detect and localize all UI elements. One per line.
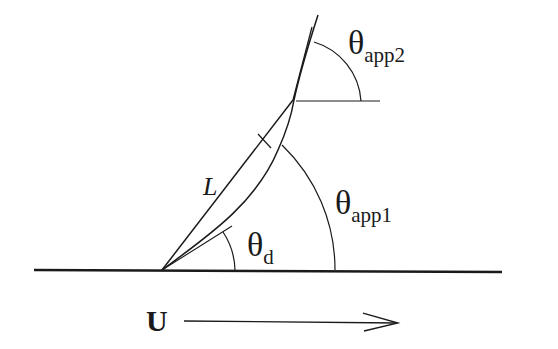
contact-angle-diagram: [0, 0, 558, 349]
base-tangent-line: [162, 226, 232, 270]
velocity-arrow-shaft: [184, 321, 397, 323]
subscript: app2: [364, 43, 405, 67]
label-theta-app2: θapp2: [348, 26, 405, 60]
label-length-L: L: [203, 174, 217, 200]
label-theta-app1: θapp1: [335, 186, 392, 220]
theta-symbol: θ: [335, 184, 351, 221]
ground-line: [34, 270, 502, 272]
subscript: app1: [351, 203, 392, 227]
arc-theta-d: [223, 232, 235, 270]
curved-interface: [162, 15, 318, 270]
upper-tangent-line: [293, 27, 312, 100]
subscript: d: [263, 245, 274, 269]
arc-theta-app1: [282, 145, 335, 270]
velocity-arrow-head: [363, 313, 398, 331]
label-theta-d: θd: [247, 228, 274, 262]
theta-symbol: θ: [247, 226, 263, 263]
label-velocity-U: U: [146, 306, 168, 336]
theta-symbol: θ: [348, 24, 364, 61]
